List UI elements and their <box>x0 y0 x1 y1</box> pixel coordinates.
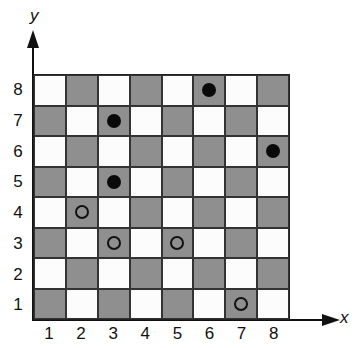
board-cell-3-7 <box>98 106 130 137</box>
board-cell-3-2 <box>98 258 130 289</box>
board-cell-7-4 <box>225 197 257 228</box>
board-cell-3-1 <box>98 289 130 320</box>
x-tick-label: 7 <box>232 324 252 344</box>
x-tick-label: 2 <box>71 324 91 344</box>
board-cell-8-5 <box>257 167 289 198</box>
board-cell-4-2 <box>130 258 162 289</box>
checkerboard <box>33 74 290 320</box>
hollow-circle-icon <box>234 297 248 311</box>
board-cell-8-6 <box>257 136 289 167</box>
board-cell-2-1 <box>66 289 98 320</box>
board-cell-4-5 <box>130 167 162 198</box>
board-cell-7-8 <box>225 75 257 106</box>
board-cell-6-4 <box>193 197 225 228</box>
board-cell-5-6 <box>162 136 194 167</box>
hollow-circle-icon <box>107 236 121 250</box>
board-cell-5-3 <box>162 228 194 259</box>
board-cell-5-5 <box>162 167 194 198</box>
board-cell-4-8 <box>130 75 162 106</box>
board-cell-2-8 <box>66 75 98 106</box>
y-axis-arrow-icon <box>27 30 39 48</box>
filled-circle-icon <box>202 83 216 97</box>
board-cell-3-4 <box>98 197 130 228</box>
board-cell-4-1 <box>130 289 162 320</box>
board-cell-1-5 <box>34 167 66 198</box>
x-tick-label: 4 <box>135 324 155 344</box>
board-cell-7-6 <box>225 136 257 167</box>
board-cell-1-7 <box>34 106 66 137</box>
board-cell-8-2 <box>257 258 289 289</box>
board-cell-5-2 <box>162 258 194 289</box>
board-cell-2-2 <box>66 258 98 289</box>
y-tick-label: 1 <box>8 295 28 315</box>
board-cell-5-7 <box>162 106 194 137</box>
x-axis-label: x <box>340 308 349 328</box>
x-tick-label: 3 <box>103 324 123 344</box>
hollow-circle-icon <box>170 236 184 250</box>
x-tick-label: 6 <box>200 324 220 344</box>
board-cell-6-8 <box>193 75 225 106</box>
board-cell-6-5 <box>193 167 225 198</box>
board-cell-1-1 <box>34 289 66 320</box>
x-tick-label: 5 <box>167 324 187 344</box>
board-cell-3-8 <box>98 75 130 106</box>
y-tick-label: 6 <box>8 142 28 162</box>
board-cell-3-5 <box>98 167 130 198</box>
board-cell-7-7 <box>225 106 257 137</box>
board-cell-1-6 <box>34 136 66 167</box>
board-cell-1-8 <box>34 75 66 106</box>
x-axis-arrow-icon <box>322 314 340 326</box>
board-cell-6-7 <box>193 106 225 137</box>
board-cell-2-6 <box>66 136 98 167</box>
y-tick-label: 4 <box>8 203 28 223</box>
board-cell-6-2 <box>193 258 225 289</box>
board-cell-6-3 <box>193 228 225 259</box>
x-tick-label: 1 <box>39 324 59 344</box>
board-cell-8-3 <box>257 228 289 259</box>
board-cell-2-4 <box>66 197 98 228</box>
y-tick-label: 8 <box>8 80 28 100</box>
board-cell-8-8 <box>257 75 289 106</box>
board-cell-2-3 <box>66 228 98 259</box>
board-cell-5-1 <box>162 289 194 320</box>
y-axis-label: y <box>30 6 39 26</box>
filled-circle-icon <box>107 114 121 128</box>
board-cell-1-4 <box>34 197 66 228</box>
board-cell-6-1 <box>193 289 225 320</box>
board-cell-4-6 <box>130 136 162 167</box>
y-tick-label: 5 <box>8 172 28 192</box>
y-tick-label: 3 <box>8 234 28 254</box>
board-cell-1-2 <box>34 258 66 289</box>
board-cell-7-3 <box>225 228 257 259</box>
filled-circle-icon <box>266 144 280 158</box>
board-cell-7-5 <box>225 167 257 198</box>
board-cell-1-3 <box>34 228 66 259</box>
board-cell-3-3 <box>98 228 130 259</box>
board-cell-6-6 <box>193 136 225 167</box>
board-cell-5-8 <box>162 75 194 106</box>
board-cell-4-7 <box>130 106 162 137</box>
board-cell-3-6 <box>98 136 130 167</box>
board-cell-7-2 <box>225 258 257 289</box>
x-tick-label: 8 <box>264 324 284 344</box>
y-tick-label: 7 <box>8 111 28 131</box>
board-cell-2-5 <box>66 167 98 198</box>
board-cell-2-7 <box>66 106 98 137</box>
board-cell-7-1 <box>225 289 257 320</box>
board-cell-8-7 <box>257 106 289 137</box>
board-cell-5-4 <box>162 197 194 228</box>
board-cell-4-3 <box>130 228 162 259</box>
filled-circle-icon <box>107 175 121 189</box>
board-cell-8-1 <box>257 289 289 320</box>
board-cell-4-4 <box>130 197 162 228</box>
hollow-circle-icon <box>75 205 89 219</box>
board-cell-8-4 <box>257 197 289 228</box>
y-tick-label: 2 <box>8 265 28 285</box>
